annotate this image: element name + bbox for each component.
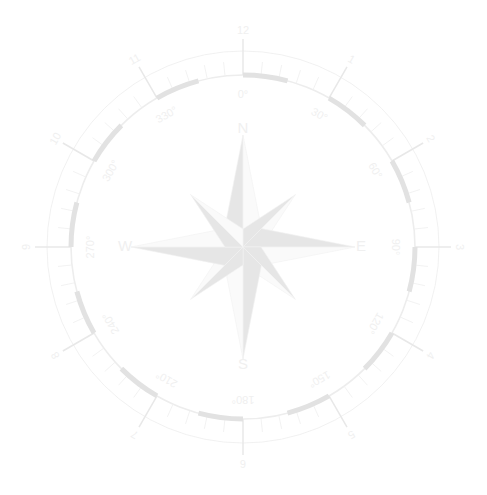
hour-label: 9	[20, 244, 32, 250]
hour-label: 12	[237, 24, 249, 36]
degree-label: 0°	[238, 88, 249, 100]
compass-svg: 0°30°60°90°120°150°180°210°240°270°300°3…	[0, 0, 487, 495]
degree-label: 90°	[390, 239, 402, 256]
cardinal-label-w: W	[118, 237, 133, 254]
cardinal-label-s: S	[238, 355, 248, 372]
cardinal-label-n: N	[238, 119, 249, 136]
degree-label: 180°	[232, 394, 255, 406]
compass-rose-watermark: 0°30°60°90°120°150°180°210°240°270°300°3…	[0, 0, 487, 495]
hour-label: 3	[454, 244, 466, 250]
degree-label: 270°	[84, 236, 96, 259]
cardinal-label-e: E	[356, 237, 366, 254]
hour-label: 6	[240, 458, 246, 470]
